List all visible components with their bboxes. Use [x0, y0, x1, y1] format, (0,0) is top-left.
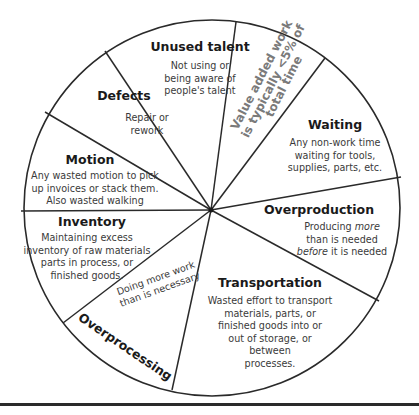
segment-description: Producing more than is needed before it … — [244, 221, 394, 258]
segment-description: Repair or rework — [72, 112, 182, 137]
segment-defects: Defects Repair or rework — [72, 89, 182, 137]
spoke-inventory-motion — [21, 210, 211, 211]
segment-title: Waiting — [280, 118, 390, 132]
segment-title: Motion — [28, 153, 162, 167]
segment-motion: Motion Any wasted motion to pick up invo… — [28, 153, 162, 208]
segment-title: Unused talent — [140, 40, 260, 54]
segment-waiting: Waiting Any non-work time waiting for to… — [280, 118, 390, 175]
segment-transportation: Transportation Wasted effort to transpor… — [200, 276, 340, 370]
segment-inventory: Inventory Maintaining excess inventory o… — [22, 215, 152, 282]
segment-overproduction: Overproduction Producing more than is ne… — [244, 203, 394, 259]
segment-title: Transportation — [200, 276, 340, 290]
bottom-rule — [0, 403, 419, 406]
segment-title: Inventory — [22, 215, 152, 229]
segment-title: Overproduction — [244, 203, 394, 217]
wheel-hub — [209, 208, 214, 213]
segment-description: Any non-work time waiting for tools, sup… — [280, 137, 390, 174]
segment-description: Any wasted motion to pick up invoices or… — [28, 170, 162, 207]
segment-description: Maintaining excess inventory of raw mate… — [22, 232, 152, 282]
segment-title: Defects — [72, 89, 182, 103]
segment-description: Wasted effort to transport materials, pa… — [200, 295, 340, 370]
